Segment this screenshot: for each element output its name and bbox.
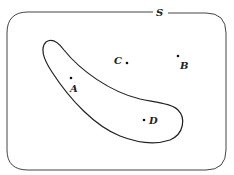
point-d-label: D — [148, 115, 158, 126]
point-d-dot — [143, 119, 146, 122]
point-a-label: A — [69, 83, 78, 94]
point-c-label: C — [114, 55, 122, 66]
point-b-dot — [177, 55, 180, 58]
point-a-dot — [70, 77, 73, 80]
universe-label: S — [156, 7, 163, 18]
venn-diagram: S A B C D — [0, 0, 234, 175]
point-b-label: B — [179, 60, 188, 71]
subset-region — [43, 40, 183, 142]
point-c-dot — [126, 62, 129, 65]
